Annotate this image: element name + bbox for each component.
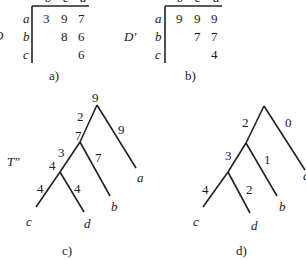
matrix-b-side-label: D′	[124, 29, 136, 45]
row-header: a	[23, 11, 30, 27]
edge-label: 0	[285, 115, 292, 131]
caption-a: a)	[49, 68, 59, 84]
matrix-cell: 8	[61, 29, 68, 45]
edge-label: 4	[37, 181, 44, 197]
caption-c: c)	[62, 243, 72, 259]
leaf-label-b: b	[279, 199, 286, 215]
matrix-cell: 6	[78, 47, 85, 63]
leaf-label-c: c	[26, 214, 32, 230]
row-header: c	[155, 47, 161, 63]
leaf-label-d: d	[251, 218, 258, 234]
edge-label: 7	[95, 150, 102, 166]
edge-label: 4	[74, 181, 81, 197]
row-header: b	[155, 29, 162, 45]
matrix-cell: 9	[61, 11, 68, 27]
edge-label: 3	[58, 145, 65, 161]
caption-b: b)	[185, 68, 196, 84]
edge-label: 2	[77, 109, 84, 125]
edge-label: 1	[264, 152, 271, 168]
col-header: c	[63, 0, 69, 6]
matrix-cell: 9	[211, 11, 218, 27]
matrix-cell: 6	[78, 29, 85, 45]
node-label-root: 9	[92, 90, 99, 106]
matrix-cell: 9	[176, 11, 183, 27]
col-header: b	[177, 0, 184, 6]
node-label-n2: 4	[49, 158, 56, 174]
edge-label: 9	[118, 122, 125, 138]
col-header: c	[195, 0, 201, 6]
edge-label: 2	[246, 182, 253, 198]
matrix-cell: 4	[211, 47, 218, 63]
row-header: c	[23, 47, 29, 63]
matrix-cell: 9	[194, 11, 201, 27]
leaf-label-a: a	[303, 168, 306, 184]
leaf-label-b: b	[111, 199, 118, 215]
edge-label: 3	[225, 148, 232, 164]
row-header: b	[23, 29, 30, 45]
diagram-lines	[0, 0, 306, 260]
row-header: a	[155, 11, 162, 27]
col-header: b	[45, 0, 52, 6]
matrix-cell: 7	[78, 11, 85, 27]
edge-label: 2	[242, 115, 249, 131]
col-header: d	[213, 0, 220, 6]
matrix-cell: 7	[211, 29, 218, 45]
node-label-n1: 7	[75, 128, 82, 144]
matrix-cell: 7	[194, 29, 201, 45]
leaf-label-c: c	[193, 214, 199, 230]
leaf-label-d: d	[84, 216, 91, 232]
leaf-label-a: a	[137, 170, 144, 186]
matrix-a-side-label: D	[0, 28, 3, 44]
tree-c-side-label: T″	[7, 154, 20, 170]
matrix-cell: 3	[43, 11, 50, 27]
col-header: d	[80, 0, 87, 6]
edge-label: 4	[202, 182, 209, 198]
caption-d: d)	[236, 243, 247, 259]
